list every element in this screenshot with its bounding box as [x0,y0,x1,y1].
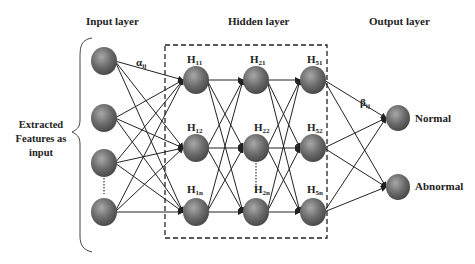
beta-weight-label: βij [360,96,370,110]
node-layer1-2 [183,198,209,226]
node-layer1-0 [183,66,209,94]
hidden-layer-title: Hidden layer [228,15,289,27]
connection-edge [115,61,183,148]
connection-edge [115,163,183,212]
connection-edge [115,118,183,212]
output-label-abnormal: Abnormal [415,180,463,192]
node-layer2-0 [243,66,269,94]
node-layer3-2 [300,198,326,226]
output-label-normal: Normal [415,112,451,124]
input-side-label: Extracted Features as input [10,118,72,160]
node-layer3-1 [300,134,326,162]
node-label-h51: H51 [307,53,323,67]
node-label-h12: H12 [187,121,203,135]
output-layer-title: Output layer [369,15,430,27]
node-layer4-1 [386,174,410,200]
node-layer1-1 [183,134,209,162]
node-layer2-1 [243,134,269,162]
connection-edge [115,80,183,212]
node-label-h52: H52 [307,121,323,135]
node-label-h2n: H2n [254,183,270,197]
connection-edge [115,148,183,212]
connection-edge [324,187,386,212]
node-layer0-3 [91,198,117,226]
connection-edge [115,118,183,148]
connection-edge [324,80,386,118]
node-label-h5n: H5n [307,183,323,197]
node-layer3-0 [300,66,326,94]
node-label-h1n: H1n [187,183,203,197]
node-layer0-0 [91,47,117,75]
node-label-h21: H21 [250,53,266,67]
input-brace [72,38,92,252]
node-layer0-2 [91,149,117,177]
input-layer-title: Input layer [86,15,139,27]
connection-edge [324,118,386,212]
node-layer2-2 [243,198,269,226]
nodes [91,47,410,226]
node-layer4-0 [386,105,410,131]
connection-edge [324,148,386,187]
connection-edge [115,61,183,80]
node-layer0-1 [91,104,117,132]
alpha-weight-label: αij [136,56,146,70]
node-label-h11: H11 [187,53,202,67]
neural-network-diagram: Input layer Hidden layer Output layer Ex… [0,0,475,264]
connection-edge [115,61,183,212]
node-label-h22: H22 [254,121,270,135]
